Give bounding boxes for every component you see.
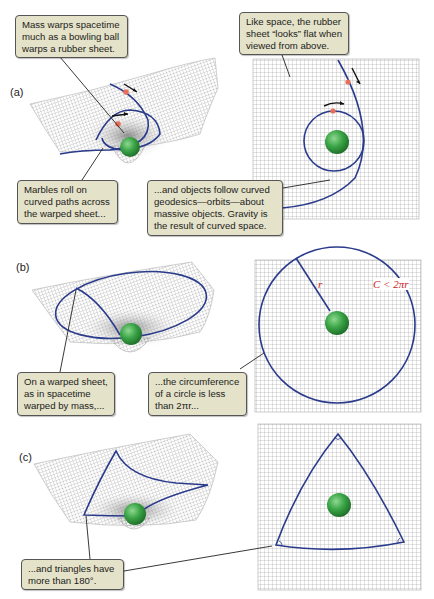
callout-line: of a circle is less <box>155 388 240 400</box>
panel-label-a: (a) <box>10 86 23 98</box>
callout-marbles-roll: Marbles roll on curved paths across the … <box>17 180 118 224</box>
callout-line: geodesics—orbits—about <box>154 196 276 208</box>
figure-graphics <box>0 0 434 599</box>
panel-c-flat-sheet <box>258 424 421 590</box>
callout-line: much as a bowling ball <box>22 31 121 43</box>
callout-line: the result of curved space. <box>154 220 276 232</box>
callout-circumference-less: ...the circumference of a circle is less… <box>148 372 247 416</box>
callout-warped-sheet: On a warped sheet, as in spacetime warpe… <box>17 372 115 416</box>
radius-label: r <box>318 278 322 290</box>
panel-b-flat-sheet <box>255 247 421 412</box>
callout-line: curved paths across <box>24 196 111 208</box>
panel-label-c: (c) <box>19 451 32 463</box>
panel-a-warped-sheet <box>30 58 218 163</box>
callout-line: the warped sheet... <box>24 208 111 220</box>
callout-line: Mass warps spacetime <box>22 19 121 31</box>
callout-line: as in spacetime <box>24 388 108 400</box>
callout-mass-warps-spacetime: Mass warps spacetime much as a bowling b… <box>15 15 128 58</box>
callout-line: Marbles roll on <box>24 184 111 196</box>
callout-line: warps a rubber sheet. <box>22 43 121 55</box>
circumference-label: C < 2πr <box>373 278 409 290</box>
callout-line: more than 180°. <box>28 575 117 587</box>
callout-line: viewed from above. <box>246 40 342 52</box>
callout-line: sheet “looks” flat when <box>246 28 342 40</box>
panel-b-warped-sheet <box>32 262 214 352</box>
callout-line: ...and objects follow curved <box>154 184 276 196</box>
callout-line: On a warped sheet, <box>24 376 108 388</box>
panel-c-warped-sheet <box>34 434 218 530</box>
callout-line: warped by mass,... <box>24 400 108 412</box>
panel-label-b: (b) <box>16 261 29 273</box>
callout-triangles-more-than-180: ...and triangles have more than 180°. <box>21 559 124 590</box>
callout-line: Like space, the rubber <box>246 16 342 28</box>
callout-line: ...and triangles have <box>28 563 117 575</box>
callout-line: ...the circumference <box>155 376 240 388</box>
callout-looks-flat-from-above: Like space, the rubber sheet “looks” fla… <box>239 12 349 55</box>
callout-line: massive objects. Gravity is <box>154 208 276 220</box>
callout-line: than 2πr... <box>155 400 240 412</box>
callout-objects-follow-geodesics: ...and objects follow curved geodesics—o… <box>147 180 283 236</box>
